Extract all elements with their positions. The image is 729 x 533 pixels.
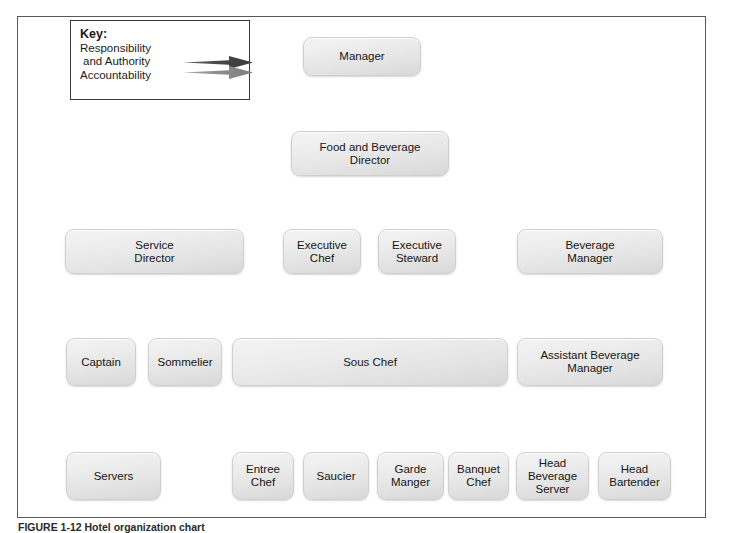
- node-head-beverage-server-line3: Server: [528, 483, 577, 496]
- node-manager[interactable]: Manager: [303, 37, 421, 76]
- node-assistant-beverage-manager[interactable]: Assistant Beverage Manager: [517, 338, 663, 386]
- node-beverage-manager-line2: Manager: [565, 252, 614, 265]
- node-fb-director[interactable]: Food and Beverage Director: [291, 131, 449, 176]
- node-head-bartender-line2: Bartender: [609, 476, 660, 489]
- node-beverage-manager[interactable]: Beverage Manager: [517, 229, 663, 274]
- node-assistant-beverage-manager-line2: Manager: [540, 362, 639, 375]
- node-head-bartender-line1: Head: [609, 463, 660, 476]
- node-assistant-beverage-manager-line1: Assistant Beverage: [540, 349, 639, 362]
- accountability-arrow-icon: [183, 65, 255, 80]
- node-executive-chef[interactable]: Executive Chef: [283, 229, 361, 274]
- node-executive-steward-line1: Executive: [392, 239, 442, 252]
- node-sommelier[interactable]: Sommelier: [148, 338, 222, 386]
- node-manager-line1: Manager: [339, 50, 384, 63]
- node-captain[interactable]: Captain: [66, 338, 136, 386]
- node-sommelier-line1: Sommelier: [158, 356, 213, 369]
- node-head-beverage-server[interactable]: Head Beverage Server: [516, 452, 589, 500]
- node-banquet-chef[interactable]: Banquet Chef: [448, 452, 509, 500]
- legend-entry-accountability: Accountability: [80, 69, 241, 96]
- node-service-director[interactable]: Service Director: [65, 229, 244, 274]
- node-servers[interactable]: Servers: [66, 452, 161, 500]
- node-fb-director-line1: Food and Beverage: [319, 141, 420, 154]
- node-garde-manger-line1: Garde: [391, 463, 430, 476]
- legend-label-responsibility-line1: Responsibility: [80, 42, 151, 54]
- node-entree-chef-line2: Chef: [246, 476, 280, 489]
- node-garde-manger-line2: Manger: [391, 476, 430, 489]
- node-executive-chef-line1: Executive: [297, 239, 347, 252]
- node-entree-chef-line1: Entree: [246, 463, 280, 476]
- node-sous-chef[interactable]: Sous Chef: [232, 338, 508, 386]
- figure-caption: FIGURE 1-12 Hotel organization chart: [18, 521, 538, 533]
- legend-key-box: Key: Responsibility and Authority Accoun…: [70, 20, 250, 100]
- node-garde-manger[interactable]: Garde Manger: [377, 452, 444, 500]
- node-service-director-line1: Service: [134, 239, 174, 252]
- node-service-director-line2: Director: [134, 252, 174, 265]
- node-fb-director-line2: Director: [319, 154, 420, 167]
- node-executive-steward[interactable]: Executive Steward: [378, 229, 456, 274]
- node-banquet-chef-line1: Banquet: [457, 463, 500, 476]
- node-head-beverage-server-line2: Beverage: [528, 470, 577, 483]
- node-executive-chef-line2: Chef: [297, 252, 347, 265]
- node-beverage-manager-line1: Beverage: [565, 239, 614, 252]
- node-saucier-line1: Saucier: [317, 470, 356, 483]
- node-captain-line1: Captain: [81, 356, 121, 369]
- node-entree-chef[interactable]: Entree Chef: [232, 452, 294, 500]
- node-head-beverage-server-line1: Head: [528, 457, 577, 470]
- node-head-bartender[interactable]: Head Bartender: [598, 452, 671, 500]
- node-executive-steward-line2: Steward: [392, 252, 442, 265]
- legend-title: Key:: [80, 27, 241, 41]
- node-banquet-chef-line2: Chef: [457, 476, 500, 489]
- node-servers-line1: Servers: [94, 470, 134, 483]
- node-saucier[interactable]: Saucier: [303, 452, 369, 500]
- node-sous-chef-line1: Sous Chef: [343, 356, 397, 369]
